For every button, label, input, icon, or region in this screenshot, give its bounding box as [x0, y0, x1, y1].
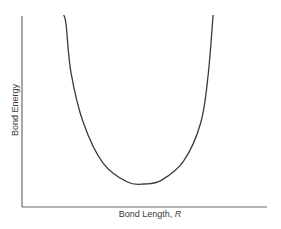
bond-energy-curve — [64, 15, 213, 184]
x-axis-label: Bond Length, R — [0, 209, 281, 219]
y-axis-label: Bond Energy — [10, 84, 20, 136]
bond-energy-chart — [0, 0, 281, 229]
x-axis-label-text: Bond Length, — [119, 209, 175, 219]
x-axis-label-symbol: R — [175, 209, 182, 219]
